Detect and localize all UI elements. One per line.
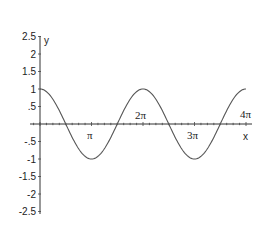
x-axis-label: x <box>243 131 248 142</box>
y-tick-label: -1 <box>27 154 36 165</box>
x-tick-label-2pi: 2π <box>135 109 147 121</box>
y-tick-label: 1.5 <box>22 66 36 77</box>
y-tick-label: -1.5 <box>19 171 37 182</box>
y-tick-label: -2.5 <box>19 206 37 217</box>
y-axis-label: y <box>44 35 49 46</box>
y-tick-label: 1 <box>30 84 36 95</box>
y-tick-label: .5 <box>28 101 37 112</box>
y-tick-label: -.5 <box>24 136 36 147</box>
y-tick-label: -2 <box>27 189 36 200</box>
x-tick-label-pi: π <box>87 129 93 141</box>
y-tick-label: 2.5 <box>22 31 36 42</box>
x-tick-label-4pi: 4π <box>240 108 252 120</box>
x-tick-label-3pi: 3π <box>187 129 199 141</box>
y-tick-label: 2 <box>30 49 36 60</box>
cosine-plot: 2.521.51.5-.5-1-1.5-2-2.5 y x π 2π 3π 4π <box>0 0 269 227</box>
